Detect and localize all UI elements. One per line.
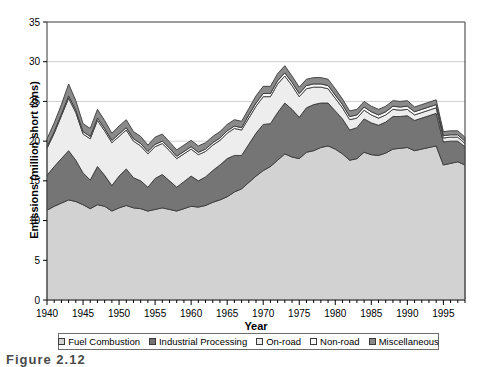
legend-item[interactable]: Non-road <box>310 337 360 347</box>
x-tick-label: 1970 <box>252 308 275 319</box>
x-tick-label: 1960 <box>180 308 203 319</box>
legend-swatch-icon <box>149 338 156 345</box>
x-axis-title: Year <box>47 320 465 332</box>
x-tick-label: 1955 <box>144 308 167 319</box>
x-tick-label: 1980 <box>324 308 347 319</box>
legend-swatch-icon <box>58 338 65 345</box>
chart-legend: Fuel CombustionIndustrial ProcessingOn-r… <box>58 333 439 350</box>
legend-item[interactable]: Fuel Combustion <box>58 337 140 347</box>
area-series-group <box>47 66 465 300</box>
legend-label: Miscellaneous <box>379 337 439 347</box>
x-tick-label: 1990 <box>396 308 419 319</box>
figure-caption: Figure 2.12 <box>6 352 86 367</box>
legend-item[interactable]: Industrial Processing <box>149 337 247 347</box>
x-tick-label: 1965 <box>216 308 239 319</box>
legend-swatch-icon <box>256 338 263 345</box>
y-tick-label: 0 <box>34 295 40 306</box>
legend-item[interactable]: Miscellaneous <box>369 337 439 347</box>
y-axis-title: Emissions (million short tons) <box>28 40 40 280</box>
x-tick-label: 1985 <box>360 308 383 319</box>
legend-swatch-icon <box>369 338 376 345</box>
legend-label: Industrial Processing <box>159 337 247 347</box>
x-tick-labels: 1940194519501955196019651970197519801985… <box>36 308 455 319</box>
x-tick-label: 1995 <box>432 308 455 319</box>
x-tick-label: 1975 <box>288 308 311 319</box>
legend-swatch-icon <box>310 338 317 345</box>
legend-label: Non-road <box>320 337 360 347</box>
x-tick-label: 1940 <box>36 308 59 319</box>
legend-label: Fuel Combustion <box>68 337 140 347</box>
x-tick-label: 1950 <box>108 308 131 319</box>
x-tick-label: 1945 <box>72 308 95 319</box>
legend-label: On-road <box>266 337 301 347</box>
legend-item[interactable]: On-road <box>256 337 301 347</box>
y-tick-label: 35 <box>29 17 41 28</box>
